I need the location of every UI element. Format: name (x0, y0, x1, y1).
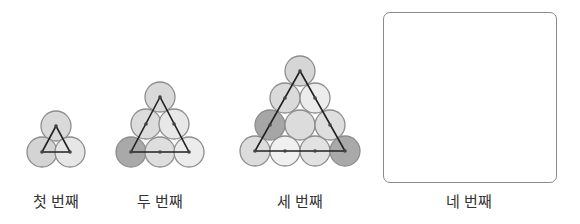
center-dot (253, 149, 257, 153)
label-first: 첫 번째 (33, 190, 80, 211)
label-third: 세 번째 (277, 190, 324, 211)
triangle-figure-1 (27, 111, 85, 167)
center-dot (54, 124, 58, 128)
center-dot (313, 149, 317, 153)
center-dot (283, 149, 287, 153)
center-dot (158, 150, 162, 154)
center-dot (328, 123, 332, 127)
label-fourth: 네 번째 (446, 190, 493, 211)
center-dot (158, 95, 162, 99)
empty-answer-box[interactable] (383, 12, 557, 183)
center-dot (298, 69, 302, 73)
center-dot (144, 122, 148, 126)
circle (285, 110, 315, 140)
center-dot (68, 150, 72, 154)
center-dot (129, 150, 133, 154)
label-second: 두 번째 (137, 190, 184, 211)
center-dot (172, 122, 176, 126)
center-dot (187, 150, 191, 154)
center-dot (268, 123, 272, 127)
center-dot (313, 96, 317, 100)
center-dot (283, 96, 287, 100)
center-dot (40, 150, 44, 154)
triangle-figure-3 (240, 56, 360, 166)
center-dot (343, 149, 347, 153)
triangle-figure-2 (116, 82, 204, 167)
